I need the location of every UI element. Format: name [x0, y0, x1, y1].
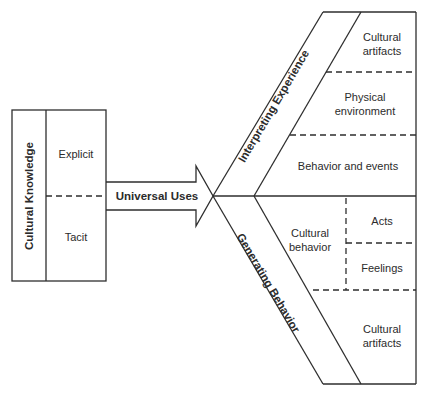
generating-behavior-branch: Generating Behavior Cultural behavior Ac… [213, 196, 416, 384]
physical-environment-line1: Physical [345, 91, 386, 103]
explicit-label: Explicit [59, 148, 94, 160]
universal-uses-label: Universal Uses [116, 190, 198, 202]
cultural-behavior-line1: Cultural [291, 227, 329, 239]
universal-uses-arrow: Universal Uses [106, 166, 213, 226]
lower-cultural-artifacts-line2: artifacts [363, 337, 402, 349]
behavior-and-events-label: Behavior and events [298, 160, 399, 172]
upper-cultural-artifacts-line2: artifacts [363, 45, 402, 57]
cultural-knowledge-box: Cultural Knowledge Explicit Tacit [12, 110, 106, 281]
tacit-label: Tacit [65, 231, 88, 243]
cultural-knowledge-title: Cultural Knowledge [23, 142, 35, 250]
upper-cultural-artifacts-line1: Cultural [363, 31, 401, 43]
lower-cultural-artifacts-line1: Cultural [363, 323, 401, 335]
physical-environment-line2: environment [335, 105, 396, 117]
cultural-knowledge-diagram: Cultural Knowledge Explicit Tacit Univer… [0, 0, 427, 394]
feelings-label: Feelings [361, 262, 403, 274]
cultural-behavior-line2: behavior [289, 241, 332, 253]
interpreting-experience-title: Interpreting Experience [236, 48, 312, 165]
acts-label: Acts [371, 215, 393, 227]
